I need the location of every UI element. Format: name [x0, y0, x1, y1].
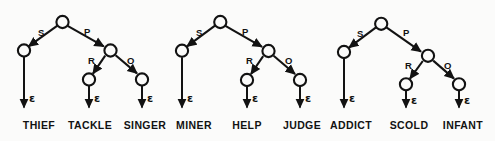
tree-2-node-s	[176, 45, 188, 57]
tree-1-word-3: SINGER	[124, 119, 167, 131]
tree-diagram-figure: S P R O ε ε ε THIEF TACKLE SINGER	[0, 0, 495, 141]
tree-2-word-1: MINER	[176, 119, 212, 131]
tree-3-label-S: S	[357, 28, 363, 39]
tree-3-label-P: P	[403, 27, 410, 38]
tree-3-word-1: ADDICT	[330, 119, 372, 131]
tree-2-word-3: JUDGE	[283, 119, 321, 131]
tree-3-node-p	[422, 50, 434, 62]
tree-2-node-o	[294, 74, 306, 86]
tree-2-label-R: R	[246, 55, 253, 66]
tree-3-label-O: O	[444, 60, 451, 71]
tree-2-node-root	[214, 16, 226, 28]
tree-1-label-P: P	[84, 26, 91, 37]
tree-1-node-root	[56, 16, 68, 28]
tree-3-word-3: INFANT	[443, 119, 483, 131]
tree-1-label-O: O	[127, 55, 134, 66]
tree-2-label-P: P	[242, 26, 249, 37]
tree-2: S P R O ε ε ε MINER HELP JUDGE	[176, 16, 321, 131]
tree-2-word-2: HELP	[232, 119, 262, 131]
tree-1-epsilon-3: ε	[147, 92, 153, 105]
tree-3-epsilon-2: ε	[411, 94, 417, 107]
tree-2-label-S: S	[196, 27, 202, 38]
tree-1-epsilon-2: ε	[94, 92, 100, 105]
tree-3-epsilon-1: ε	[349, 92, 355, 105]
tree-3-epsilon-3: ε	[464, 94, 470, 107]
tree-2-node-r	[241, 74, 253, 86]
tree-3-node-s	[338, 46, 350, 58]
tree-1-node-s	[18, 44, 30, 56]
tree-2-epsilon-1: ε	[187, 92, 193, 105]
tree-1: S P R O ε ε ε THIEF TACKLE SINGER	[18, 16, 166, 131]
tree-2-epsilon-3: ε	[305, 92, 311, 105]
tree-1-label-S: S	[38, 27, 44, 38]
tree-3-word-2: SCOLD	[390, 119, 429, 131]
tree-1-node-p	[104, 44, 116, 56]
tree-3-node-r	[400, 78, 412, 90]
tree-2-node-p	[262, 45, 274, 57]
tree-1-label-R: R	[88, 55, 95, 66]
tree-2-epsilon-2: ε	[252, 92, 258, 105]
tree-1-epsilon-1: ε	[29, 92, 35, 105]
tree-2-label-O: O	[285, 55, 292, 66]
tree-3-node-o	[453, 78, 465, 90]
tree-1-word-1: THIEF	[23, 119, 56, 131]
tree-3-label-R: R	[405, 60, 412, 71]
tree-1-word-2: TACKLE	[68, 119, 112, 131]
tree-3-edge-R	[410, 61, 423, 79]
tree-1-node-o	[136, 73, 148, 85]
diagram-canvas: S P R O ε ε ε THIEF TACKLE SINGER	[0, 0, 495, 141]
tree-3-node-root	[375, 18, 387, 30]
tree-3: S P R O ε ε ε ADDICT SCOLD INFANT	[330, 18, 483, 131]
tree-1-node-r	[83, 73, 95, 85]
